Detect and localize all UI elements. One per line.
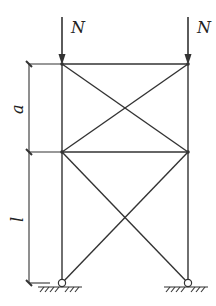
ground-hatch-left	[38, 287, 82, 292]
dimension-label-a: a	[8, 104, 27, 114]
braced-frame-diagram: N N a l	[0, 0, 216, 306]
joint-top-right	[186, 62, 190, 66]
dimension-label-l: l	[8, 217, 27, 222]
joint-middle-left	[60, 150, 64, 154]
joint-top-left	[60, 62, 64, 66]
ground-hatch-right	[164, 287, 208, 292]
load-label-right: N	[196, 18, 212, 37]
load-label-left: N	[70, 18, 86, 37]
joint-middle-right	[186, 150, 190, 154]
pin-support-left-icon	[58, 279, 65, 286]
pin-support-right-icon	[184, 279, 191, 286]
